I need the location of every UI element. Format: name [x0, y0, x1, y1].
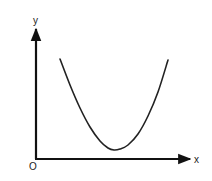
parabola-chart: y x O — [0, 0, 212, 181]
curve-line — [60, 59, 168, 150]
y-axis-label: y — [33, 15, 38, 26]
origin-label: O — [29, 161, 37, 172]
x-axis-label: x — [194, 154, 199, 165]
